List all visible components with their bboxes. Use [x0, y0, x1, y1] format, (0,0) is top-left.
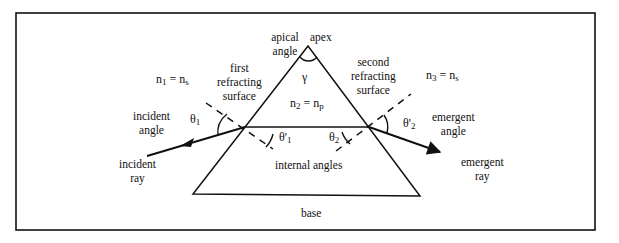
theta2-arc [342, 132, 350, 144]
emergent-ray-label: emergent ray [461, 155, 504, 183]
theta2p-arc [384, 115, 388, 133]
incident-ray-label: incident ray [119, 157, 156, 185]
n1-label: n1 = ns [156, 72, 189, 86]
gamma-arc [300, 57, 317, 61]
n3-label: n3 = ns [426, 68, 459, 82]
n2-label: n2 = np [290, 96, 324, 110]
incident-angle-label: incident angle [133, 109, 170, 137]
theta1p-arc [266, 134, 273, 147]
theta2-prime-label: θ'2 [403, 116, 415, 130]
emergent-angle-label: emergent angle [432, 110, 475, 138]
internal-angles-label: internal angles [275, 158, 342, 172]
prism-diagram: apical angle apex γ n1 = ns n2 = np n3 =… [0, 0, 619, 243]
emergent-ray [369, 127, 440, 152]
apical-angle-label: apical angle [270, 30, 300, 58]
second-refracting-surface-label: second refracting surface [351, 55, 396, 97]
frame-border [16, 13, 595, 230]
apex-label: apex [310, 30, 332, 44]
first-refracting-surface-label: first refracting surface [217, 61, 262, 103]
gamma-label: γ [302, 70, 307, 84]
incident-arrowhead [180, 138, 194, 147]
second-normal [336, 94, 411, 151]
theta1-label: θ1 [190, 112, 200, 126]
theta2-label: θ2 [329, 130, 339, 144]
first-normal [206, 103, 273, 149]
theta1-prime-label: θ'1 [279, 130, 291, 144]
base-label: base [301, 206, 321, 220]
